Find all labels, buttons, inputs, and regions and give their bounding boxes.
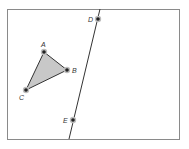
point-a-label: A	[40, 41, 46, 48]
point-b[interactable]: B	[64, 67, 77, 74]
point-e[interactable]: E	[63, 117, 76, 124]
point-c-label: C	[19, 94, 25, 101]
point-b-dot	[65, 68, 69, 72]
point-c[interactable]: C	[19, 87, 29, 101]
point-e-dot	[71, 118, 75, 122]
triangle-abc[interactable]	[26, 52, 67, 90]
point-b-label: B	[72, 67, 77, 74]
point-d-dot	[96, 17, 100, 21]
point-d-label: D	[88, 16, 93, 23]
geometry-diagram: A B C D E	[0, 0, 189, 149]
point-c-dot	[24, 88, 28, 92]
point-a[interactable]: A	[40, 41, 47, 55]
point-e-label: E	[63, 117, 68, 124]
point-d[interactable]: D	[88, 16, 101, 23]
point-a-dot	[42, 50, 46, 54]
